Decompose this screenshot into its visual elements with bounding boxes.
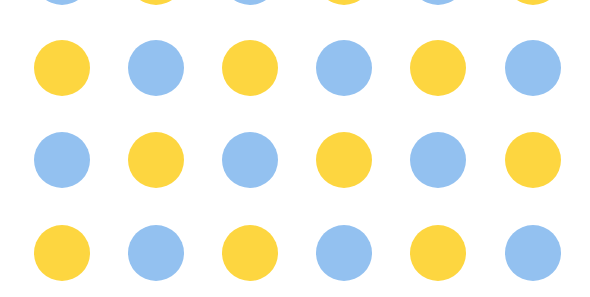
blue-dot: [222, 132, 278, 188]
blue-dot: [34, 132, 90, 188]
yellow-dot: [316, 0, 372, 5]
blue-dot: [222, 0, 278, 5]
blue-dot: [505, 40, 561, 96]
blue-dot: [34, 0, 90, 5]
yellow-dot: [410, 225, 466, 281]
yellow-dot: [128, 132, 184, 188]
blue-dot: [505, 225, 561, 281]
yellow-dot: [222, 225, 278, 281]
yellow-dot: [316, 132, 372, 188]
blue-dot: [410, 132, 466, 188]
yellow-dot: [410, 40, 466, 96]
blue-dot: [128, 225, 184, 281]
yellow-dot: [505, 0, 561, 5]
polka-dot-pattern: [0, 0, 590, 297]
blue-dot: [316, 225, 372, 281]
yellow-dot: [34, 40, 90, 96]
blue-dot: [316, 40, 372, 96]
blue-dot: [128, 40, 184, 96]
yellow-dot: [222, 40, 278, 96]
yellow-dot: [34, 225, 90, 281]
yellow-dot: [128, 0, 184, 5]
blue-dot: [410, 0, 466, 5]
yellow-dot: [505, 132, 561, 188]
